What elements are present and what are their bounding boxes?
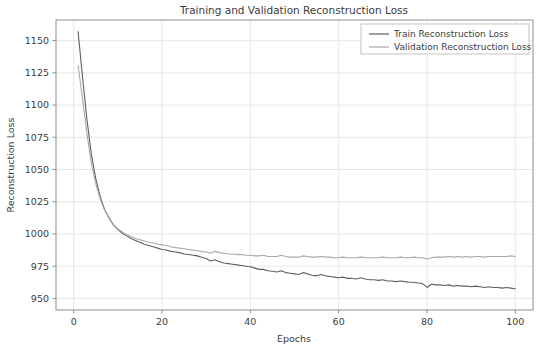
tick-label-x: 100 — [506, 316, 524, 327]
tick-label-x: 60 — [333, 316, 345, 327]
y-axis-label: Reconstruction Loss — [5, 117, 16, 212]
reconstruction-loss-line-chart: Training and Validation Reconstruction L… — [0, 0, 545, 349]
tick-label-y: 1075 — [25, 132, 49, 143]
chart-figure: Training and Validation Reconstruction L… — [0, 0, 545, 349]
tick-label-x: 0 — [71, 316, 77, 327]
chart-title: Training and Validation Reconstruction L… — [179, 4, 408, 16]
chart-legend[interactable]: Train Reconstruction LossValidation Reco… — [361, 24, 532, 54]
tick-label-y: 950 — [31, 293, 49, 304]
tick-label-x: 80 — [421, 316, 433, 327]
tick-label-x: 40 — [244, 316, 256, 327]
tick-label-y: 1000 — [25, 228, 49, 239]
tick-label-y: 1025 — [25, 196, 49, 207]
tick-label-x: 20 — [156, 316, 168, 327]
tick-label-y: 1100 — [25, 99, 49, 110]
tick-label-y: 1050 — [25, 164, 49, 175]
tick-label-y: 975 — [31, 261, 49, 272]
tick-label-y: 1150 — [25, 35, 49, 46]
x-axis-label: Epochs — [277, 333, 311, 344]
legend-label-train: Train Reconstruction Loss — [393, 29, 509, 39]
tick-label-y: 1125 — [25, 67, 49, 78]
legend-label-validation: Validation Reconstruction Loss — [394, 42, 532, 52]
